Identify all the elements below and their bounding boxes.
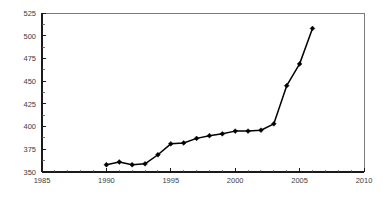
data-point [117,160,122,165]
series-line-series-1 [106,28,312,164]
x-tick-label-1995: 1995 [162,176,179,185]
y-tick-label-500: 500 [23,32,36,41]
y-tick-label-375: 375 [23,145,36,154]
plot-frame [42,13,364,172]
x-tick-label-2010: 2010 [356,176,373,185]
x-axis: 198519901995200020052010 [34,168,373,185]
y-tick-label-400: 400 [23,122,36,131]
data-point [220,131,225,136]
y-axis: 350375400425450475500525 [23,9,46,177]
line-chart: 350375400425450475500525 198519901995200… [0,0,389,200]
y-tick-label-525: 525 [23,9,36,18]
data-point [271,121,276,126]
data-point [130,162,135,167]
y-tick-label-475: 475 [23,54,36,63]
data-point [259,128,264,133]
data-point [310,26,315,31]
data-point [246,129,251,134]
data-point [194,136,199,141]
data-point [181,141,186,146]
x-tick-label-1990: 1990 [98,176,115,185]
data-point [207,133,212,138]
y-tick-label-425: 425 [23,100,36,109]
x-tick-label-2000: 2000 [227,176,244,185]
data-point [233,129,238,134]
data-series-group [104,26,315,167]
chart-canvas: 350375400425450475500525 198519901995200… [0,0,389,200]
data-point [104,162,109,167]
x-tick-label-2005: 2005 [291,176,308,185]
y-tick-label-450: 450 [23,77,36,86]
x-tick-label-1985: 1985 [34,176,51,185]
